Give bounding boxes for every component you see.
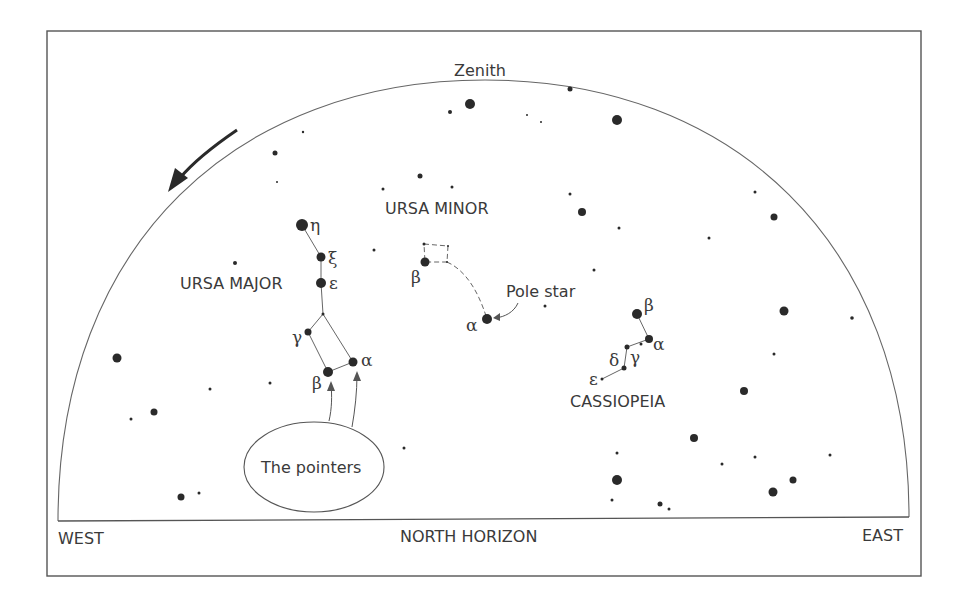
star	[568, 87, 573, 92]
star	[178, 494, 185, 501]
star	[209, 388, 212, 391]
star	[569, 193, 572, 196]
svg-text:δ: δ	[609, 350, 619, 370]
svg-text:ε: ε	[589, 369, 598, 389]
star	[690, 434, 698, 442]
star	[540, 121, 542, 123]
ursa-major-star	[323, 367, 333, 377]
star	[618, 227, 621, 230]
star	[448, 110, 452, 114]
star	[754, 456, 757, 459]
field-stars	[113, 87, 854, 511]
horizon-line	[58, 517, 909, 521]
star	[373, 249, 376, 252]
star	[578, 208, 586, 216]
star	[790, 477, 797, 484]
cassiopeia-star	[625, 345, 630, 350]
cassiopeia: CASSIOPEIA β α γ δ ε	[570, 295, 665, 411]
ursa-major: URSA MAJOR η ξ ε γ α β	[180, 215, 373, 393]
svg-text:β: β	[644, 295, 654, 315]
star	[302, 131, 304, 133]
north-horizon-label: NORTH HORIZON	[400, 527, 537, 546]
star	[658, 502, 663, 507]
sky-dome-arc	[58, 80, 909, 521]
star	[773, 353, 776, 356]
star	[612, 475, 622, 485]
svg-text:α: α	[466, 315, 478, 335]
star	[708, 237, 711, 240]
cassiopeia-star	[601, 378, 604, 381]
star	[451, 186, 454, 189]
star	[780, 307, 789, 316]
ursa-minor-star	[423, 243, 426, 246]
star	[233, 261, 237, 265]
star	[418, 174, 423, 179]
star	[544, 305, 547, 308]
cassiopeia-label: CASSIOPEIA	[570, 392, 665, 411]
star	[616, 452, 619, 455]
svg-text:α: α	[361, 350, 373, 370]
svg-text:γ: γ	[630, 347, 640, 367]
star	[198, 492, 201, 495]
star	[771, 214, 778, 221]
rotation-arrow-icon	[168, 130, 237, 192]
star	[612, 115, 622, 125]
star	[850, 316, 854, 320]
sky-chart: Zenith WEST EAST NORTH HORIZON URSA MAJO…	[0, 0, 967, 601]
star	[829, 454, 832, 457]
ursa-minor-star	[446, 261, 448, 263]
star	[276, 181, 278, 183]
star	[668, 508, 671, 511]
star	[754, 191, 757, 194]
ursa-minor-label: URSA MINOR	[385, 199, 489, 218]
ursa-major-star	[305, 329, 312, 336]
svg-text:η: η	[310, 215, 320, 235]
zenith-label: Zenith	[454, 61, 506, 80]
svg-text:ξ: ξ	[328, 248, 337, 268]
ursa-minor-star	[482, 314, 492, 324]
svg-text:β: β	[312, 373, 322, 393]
star	[382, 188, 385, 191]
star	[769, 488, 778, 497]
star	[740, 387, 748, 395]
svg-text:γ: γ	[292, 327, 302, 347]
cassiopeia-star	[632, 309, 642, 319]
pointers-label: The pointers	[260, 458, 361, 477]
star	[465, 99, 475, 109]
east-label: EAST	[862, 526, 903, 545]
pole-star-label: Pole star	[506, 282, 576, 301]
ursa-major-bowl-line	[308, 314, 353, 372]
star	[273, 151, 278, 156]
svg-text:ε: ε	[329, 273, 338, 293]
ursa-minor-star	[447, 245, 449, 247]
svg-text:α: α	[653, 334, 665, 354]
star	[269, 382, 272, 385]
star	[721, 463, 724, 466]
star	[130, 418, 133, 421]
svg-text:β: β	[411, 267, 421, 287]
ursa-major-star	[322, 313, 325, 316]
chart-frame	[47, 31, 921, 576]
star	[151, 409, 158, 416]
ursa-major-label: URSA MAJOR	[180, 274, 283, 293]
cassiopeia-star	[645, 335, 653, 343]
west-label: WEST	[58, 529, 104, 548]
cassiopeia-star	[640, 343, 643, 346]
ursa-minor-star	[421, 258, 430, 267]
ursa-major-star	[296, 219, 308, 231]
ursa-major-handle-line	[302, 225, 323, 314]
ursa-major-star	[349, 358, 358, 367]
star	[611, 499, 614, 502]
ursa-major-star	[316, 278, 326, 288]
cassiopeia-star	[622, 366, 627, 371]
star	[526, 114, 528, 116]
star	[113, 354, 122, 363]
ursa-minor: URSA MINOR β α Pole star	[385, 199, 576, 335]
star	[403, 447, 406, 450]
star	[593, 269, 596, 272]
ursa-major-star	[317, 253, 326, 262]
